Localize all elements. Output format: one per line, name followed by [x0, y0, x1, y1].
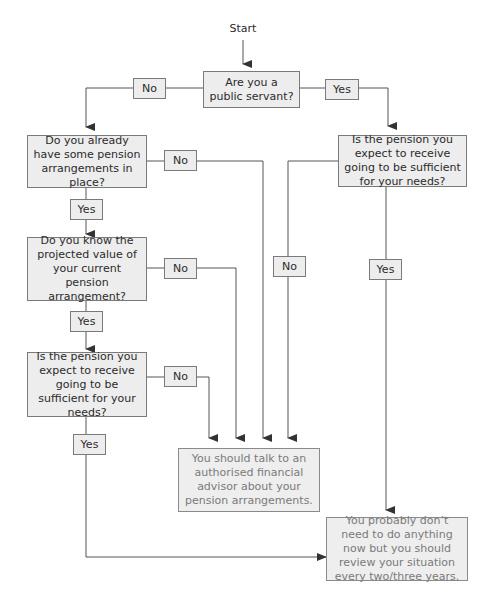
result-talk-advisor: You should talk to an authorised financi…	[178, 448, 320, 512]
question-sufficient-right: Is the pension you expect to receive goi…	[338, 135, 467, 187]
label-public-yes: Yes	[325, 79, 359, 100]
label-projected-no: No	[164, 258, 197, 279]
label-sufficient-left-yes: Yes	[73, 434, 106, 455]
label-public-no: No	[133, 78, 166, 99]
result-no-action: You probably don’t need to do anything n…	[326, 517, 468, 581]
label-sufficient-left-no: No	[164, 366, 197, 387]
label-sufficient-right-yes: Yes	[369, 259, 402, 280]
label-sufficient-right-no: No	[273, 256, 306, 277]
start-label: Start	[225, 22, 261, 35]
label-existing-no: No	[164, 150, 197, 171]
question-projected-value: Do you know the projected value of your …	[27, 237, 147, 301]
question-existing-arrangements: Do you already have some pension arrange…	[27, 135, 147, 188]
label-projected-yes: Yes	[70, 311, 103, 332]
label-existing-yes: Yes	[70, 199, 103, 220]
question-sufficient-left: Is the pension you expect to receive goi…	[27, 352, 147, 417]
question-public-servant: Are you a public servant?	[203, 71, 300, 108]
